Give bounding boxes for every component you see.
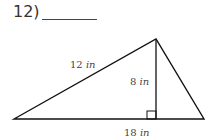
- base-label: 18 in: [124, 127, 150, 138]
- left-side-label: 12 in: [70, 59, 96, 70]
- right-angle-marker: [147, 111, 156, 119]
- height-label: 8 in: [130, 76, 149, 87]
- triangle-figure: 12 in 8 in 18 in: [0, 0, 206, 139]
- triangle: [14, 39, 204, 119]
